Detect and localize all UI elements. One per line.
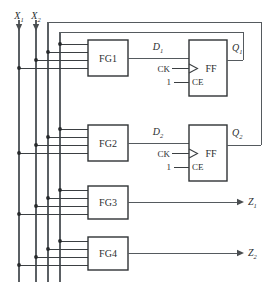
arrowhead-x1 <box>16 24 22 31</box>
svg-text:X1: X1 <box>13 10 23 23</box>
signal-label-d2: D2 <box>152 126 164 139</box>
signal-label-z1: Z1 <box>248 196 257 209</box>
pin-label-ce-ff2: CE <box>192 162 204 172</box>
wire-q2: Q2 <box>227 127 261 145</box>
output-z1: Z1 <box>128 196 257 209</box>
arrowhead-z2 <box>237 250 244 256</box>
arrowhead-z1 <box>237 199 244 205</box>
bus-lines <box>19 20 60 282</box>
arrowhead-x2 <box>33 24 39 31</box>
wire-q1: Q1 <box>227 42 243 60</box>
wire-d2: D2 <box>128 126 189 143</box>
block-fg1[interactable]: FG1 <box>88 40 128 76</box>
signal-label-z2: Z2 <box>248 247 258 260</box>
input-label-x1: X1 <box>13 10 23 23</box>
flipflop-ff2[interactable]: FF CK CE 1 <box>157 125 227 181</box>
signal-label-q1: Q1 <box>232 42 242 55</box>
pin-label-ck-ff1: CK <box>157 64 170 74</box>
fg2-input-wires <box>17 127 88 155</box>
pin-label-ce-ff1: CE <box>192 77 204 87</box>
fg3-input-wires <box>17 188 88 216</box>
fg4-input-wires <box>17 239 88 267</box>
pin-label-ck-ff2: CK <box>157 149 170 159</box>
block-fg2-label: FG2 <box>99 138 117 149</box>
block-fg3-label: FG3 <box>99 197 117 208</box>
svg-text:X2: X2 <box>30 10 41 23</box>
block-fg3[interactable]: FG3 <box>88 186 128 219</box>
pin-value-one-ff1: 1 <box>167 77 172 87</box>
circuit-schematic-svg: FG1 FG2 FG3 FG4 D1 D2 <box>0 0 274 285</box>
block-fg4[interactable]: FG4 <box>88 237 128 270</box>
wire-d1: D1 <box>128 41 189 58</box>
block-fg1-label: FG1 <box>99 53 117 64</box>
output-z2: Z2 <box>128 247 258 260</box>
fg1-input-wires <box>17 42 88 70</box>
circuit-diagram: FG1 FG2 FG3 FG4 D1 D2 <box>0 0 274 285</box>
signal-label-q2: Q2 <box>232 127 243 140</box>
flipflop-ff1[interactable]: FF CK CE 1 <box>157 40 227 96</box>
flipflop-ff2-label: FF <box>205 148 217 159</box>
input-arrowheads <box>16 24 39 31</box>
block-fg2[interactable]: FG2 <box>88 125 128 161</box>
input-label-x2: X2 <box>30 10 41 23</box>
pin-value-one-ff2: 1 <box>167 162 172 172</box>
block-fg4-label: FG4 <box>99 248 117 259</box>
flipflop-ff1-label: FF <box>205 63 217 74</box>
signal-label-d1: D1 <box>152 41 163 54</box>
